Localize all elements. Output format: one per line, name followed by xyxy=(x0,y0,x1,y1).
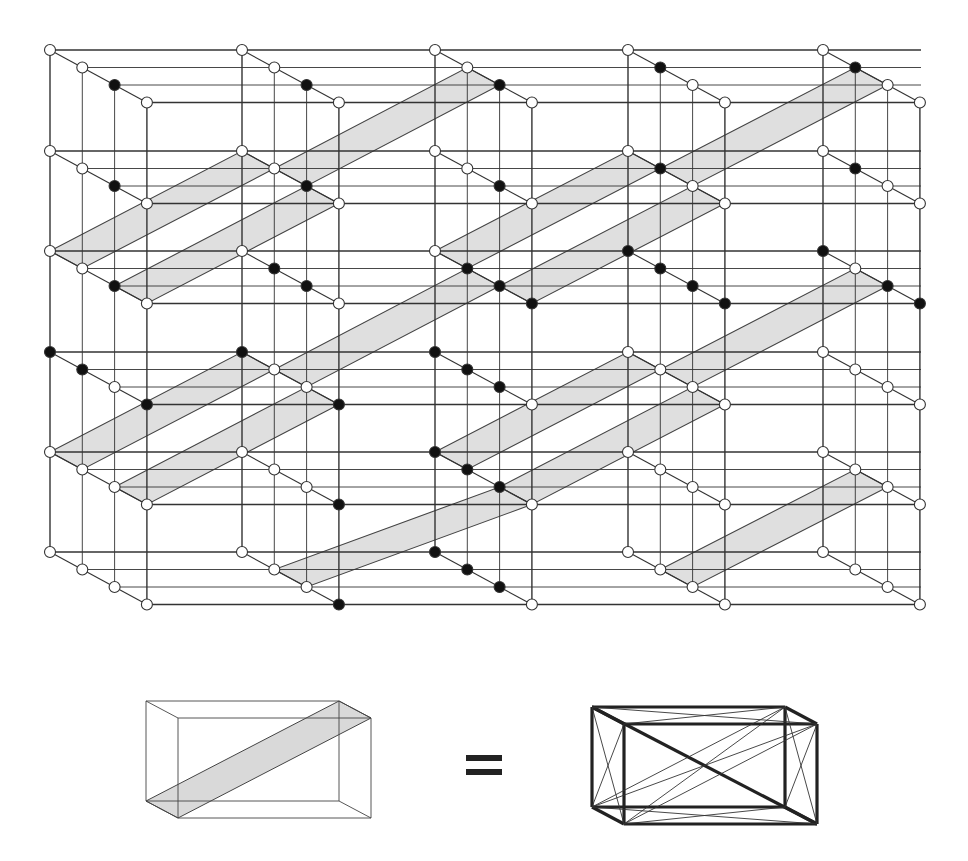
legend-band-cube xyxy=(146,701,371,818)
equals-bar-top xyxy=(466,755,502,761)
legend-thick-bond xyxy=(785,707,817,724)
legend-edge xyxy=(146,701,178,718)
equals-sign-icon: = xyxy=(466,752,502,780)
legend-thick-bond xyxy=(592,807,624,824)
legend-shaded-band xyxy=(146,701,371,818)
legend-thin-bond xyxy=(592,724,624,807)
legend-thin-bond xyxy=(624,707,785,724)
legend-equation xyxy=(0,0,968,861)
legend-thin-bond xyxy=(785,724,817,807)
legend-edge xyxy=(339,801,371,818)
equals-bar-bottom xyxy=(466,769,502,775)
legend-thin-bond xyxy=(624,807,785,824)
legend-bond-cube xyxy=(592,707,817,824)
